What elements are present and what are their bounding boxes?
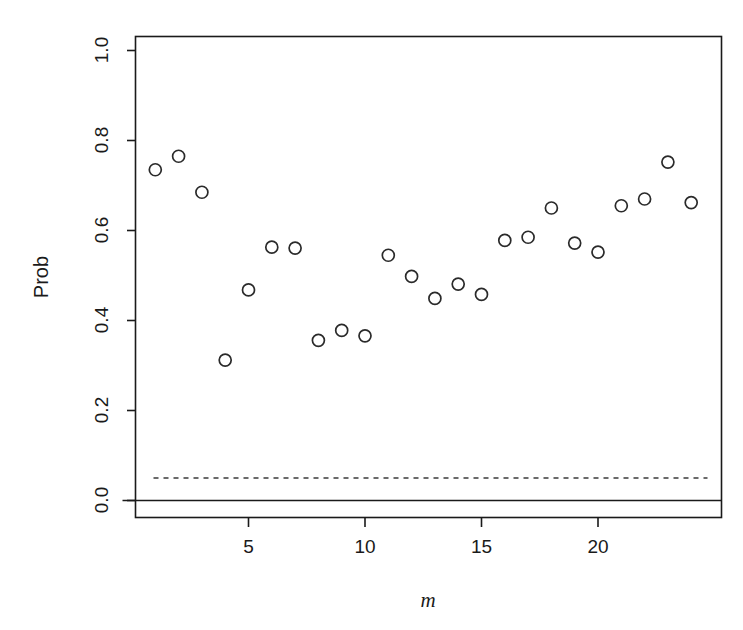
y-axis-title: Prob <box>30 256 52 298</box>
scatter-plot-figure: 1.0 0.8 0.6 0.4 0.2 0.0 Prob 5 10 15 20 … <box>0 0 743 630</box>
x-tick-label-20: 20 <box>587 536 608 557</box>
y-tick-label-1.0: 1.0 <box>91 37 112 63</box>
y-tick-label-0.6: 0.6 <box>91 217 112 243</box>
y-tick-label-0.0: 0.0 <box>91 487 112 513</box>
x-tick-label-10: 10 <box>354 536 375 557</box>
y-tick-label-0.2: 0.2 <box>91 397 112 423</box>
x-axis-title: m <box>420 588 435 612</box>
x-tick-label-15: 15 <box>471 536 492 557</box>
plot-canvas: 1.0 0.8 0.6 0.4 0.2 0.0 Prob 5 10 15 20 … <box>0 0 743 630</box>
y-tick-label-0.4: 0.4 <box>91 306 112 333</box>
x-tick-label-5: 5 <box>243 536 254 557</box>
y-tick-label-0.8: 0.8 <box>91 127 112 153</box>
